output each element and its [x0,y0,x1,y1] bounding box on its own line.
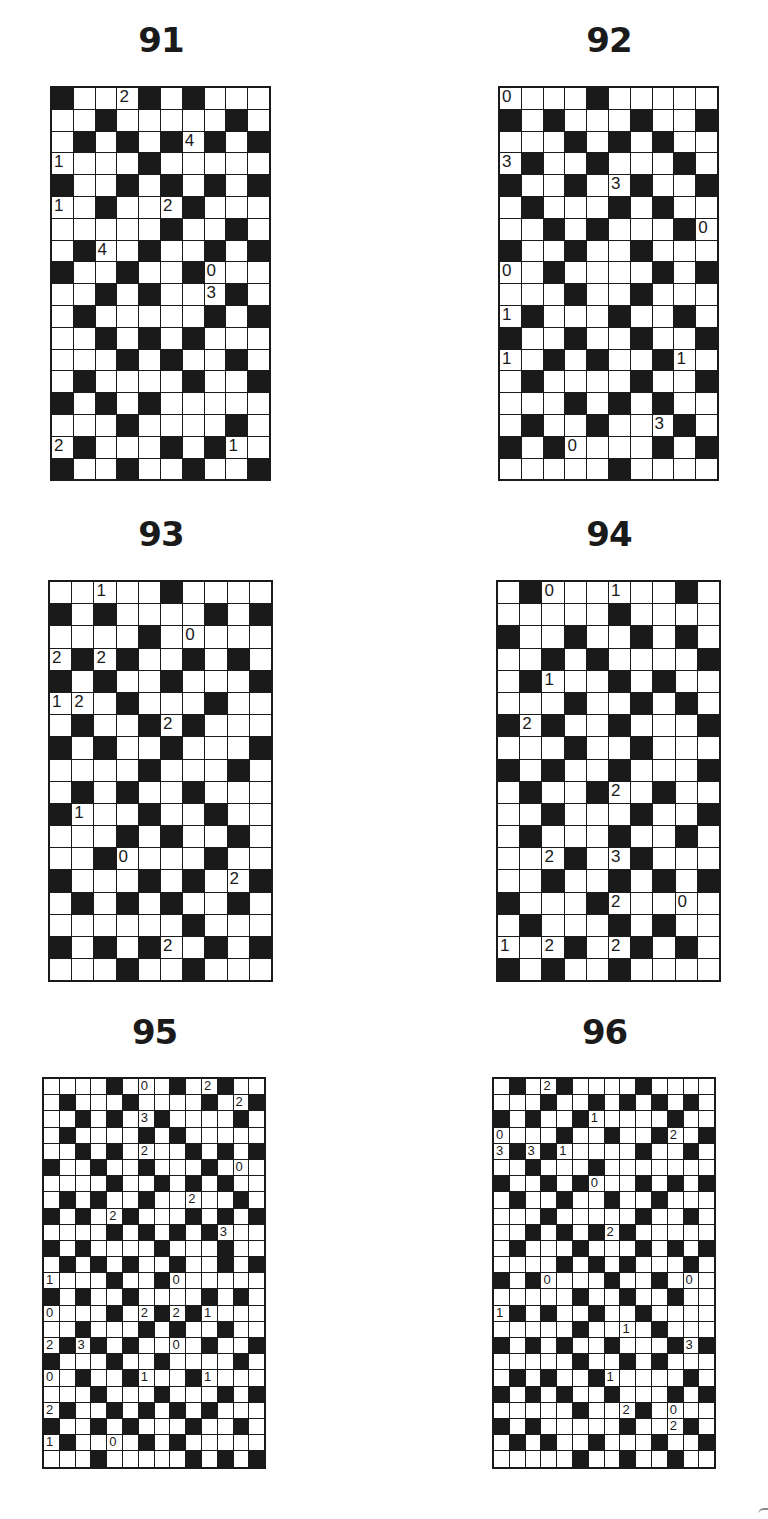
white-cell[interactable] [183,893,204,914]
white-cell[interactable] [50,760,71,781]
white-cell[interactable] [205,393,226,414]
numbered-cell[interactable]: 1 [94,582,115,603]
white-cell[interactable] [557,1354,572,1369]
white-cell[interactable] [91,1370,106,1385]
white-cell[interactable] [698,826,719,847]
white-cell[interactable] [498,604,519,625]
white-cell[interactable] [636,1322,651,1337]
white-cell[interactable] [494,1241,509,1256]
white-cell[interactable] [541,1257,556,1272]
white-cell[interactable] [557,1306,572,1321]
white-cell[interactable] [589,1403,604,1418]
white-cell[interactable] [205,671,226,692]
white-cell[interactable] [250,826,271,847]
white-cell[interactable] [557,1095,572,1110]
white-cell[interactable] [139,1451,154,1466]
white-cell[interactable] [161,649,182,670]
white-cell[interactable] [668,1160,683,1175]
white-cell[interactable] [96,153,117,174]
white-cell[interactable] [91,1306,106,1321]
white-cell[interactable] [107,1338,122,1353]
white-cell[interactable] [684,1289,699,1304]
white-cell[interactable] [684,1225,699,1240]
white-cell[interactable] [557,1435,572,1450]
white-cell[interactable] [249,1273,264,1288]
white-cell[interactable] [74,262,95,283]
white-cell[interactable] [636,1160,651,1175]
white-cell[interactable] [605,1111,620,1126]
white-cell[interactable] [155,1435,170,1450]
white-cell[interactable] [565,760,586,781]
white-cell[interactable] [699,1257,714,1272]
white-cell[interactable] [557,1241,572,1256]
white-cell[interactable] [52,284,73,305]
white-cell[interactable] [94,760,115,781]
white-cell[interactable] [674,284,695,305]
white-cell[interactable] [636,1370,651,1385]
white-cell[interactable] [250,715,271,736]
white-cell[interactable] [676,804,697,825]
numbered-cell[interactable]: 1 [139,1370,154,1385]
white-cell[interactable] [544,284,565,305]
white-cell[interactable] [620,1387,635,1402]
white-cell[interactable] [605,1144,620,1159]
white-cell[interactable] [91,1079,106,1094]
white-cell[interactable] [605,1451,620,1466]
white-cell[interactable] [494,1160,509,1175]
white-cell[interactable] [668,1225,683,1240]
white-cell[interactable] [139,1273,154,1288]
numbered-cell[interactable]: 3 [526,1144,541,1159]
white-cell[interactable] [498,826,519,847]
white-cell[interactable] [605,1403,620,1418]
white-cell[interactable] [228,959,249,980]
white-cell[interactable] [107,1192,122,1207]
white-cell[interactable] [544,371,565,392]
white-cell[interactable] [139,1338,154,1353]
white-cell[interactable] [699,1354,714,1369]
white-cell[interactable] [248,393,269,414]
white-cell[interactable] [636,1289,651,1304]
white-cell[interactable] [668,1095,683,1110]
numbered-cell[interactable]: 2 [50,649,71,670]
white-cell[interactable] [76,1257,91,1272]
white-cell[interactable] [60,1354,75,1369]
white-cell[interactable] [652,1403,667,1418]
numbered-cell[interactable]: 1 [44,1273,59,1288]
numbered-cell[interactable]: 2 [161,937,182,958]
white-cell[interactable] [587,693,608,714]
white-cell[interactable] [250,959,271,980]
numbered-cell[interactable]: 2 [139,1144,154,1159]
white-cell[interactable] [565,219,586,240]
white-cell[interactable] [91,1289,106,1304]
white-cell[interactable] [139,306,160,327]
white-cell[interactable] [96,306,117,327]
white-cell[interactable] [218,1128,233,1143]
white-cell[interactable] [520,760,541,781]
white-cell[interactable] [510,1387,525,1402]
white-cell[interactable] [541,1192,556,1207]
white-cell[interactable] [248,415,269,436]
numbered-cell[interactable]: 0 [589,1176,604,1191]
white-cell[interactable] [557,1111,572,1126]
white-cell[interactable] [609,241,630,262]
white-cell[interactable] [91,1403,106,1418]
white-cell[interactable] [183,306,204,327]
white-cell[interactable] [72,604,93,625]
white-cell[interactable] [52,415,73,436]
white-cell[interactable] [696,197,717,218]
white-cell[interactable] [652,1079,667,1094]
white-cell[interactable] [696,393,717,414]
white-cell[interactable] [652,1451,667,1466]
white-cell[interactable] [573,1387,588,1402]
white-cell[interactable] [653,826,674,847]
white-cell[interactable] [94,782,115,803]
white-cell[interactable] [96,88,117,109]
white-cell[interactable] [565,262,586,283]
white-cell[interactable] [526,1257,541,1272]
white-cell[interactable] [510,1273,525,1288]
white-cell[interactable] [674,241,695,262]
numbered-cell[interactable]: 3 [653,415,674,436]
white-cell[interactable] [696,241,717,262]
white-cell[interactable] [609,284,630,305]
white-cell[interactable] [542,782,563,803]
